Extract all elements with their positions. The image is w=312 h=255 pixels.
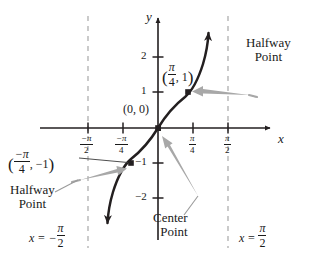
callout-arrow-halfway-top (192, 86, 249, 97)
halfway-point-annotation-top: Halfway Point (246, 36, 291, 63)
upper-point-label: ( π 4 , 1) (162, 61, 193, 88)
leader-line-halfway-bottom (55, 180, 78, 192)
fraction-half-pi: π 2 (224, 134, 231, 155)
center-point-annotation: Center Point (153, 211, 188, 238)
x-tick-label-neg-half-pi: −π 2 (80, 134, 93, 155)
lower-point-rest: , −1 (30, 157, 49, 171)
asymptote-right-prefix: x = (239, 231, 258, 245)
x-tick-label-quarter-pi: π 4 (189, 134, 196, 155)
center-point-line-2: Point (153, 225, 188, 239)
leader-line-lower-point (79, 158, 128, 163)
halfway-point-bottom-line-2: Point (10, 197, 55, 211)
fraction-neg-quarter-pi-inline: −π 4 (14, 148, 30, 175)
fraction-neg-quarter-pi: −π 4 (115, 134, 128, 155)
x-tick-label-neg-quarter-pi: −π 4 (115, 134, 128, 155)
center-point-line-1: Center (153, 211, 188, 225)
marked-point-origin (155, 125, 161, 131)
asymptote-label-right: x = π 2 (239, 222, 266, 249)
fraction-half-pi-right: π 2 (258, 222, 266, 249)
asymptote-left-prefix: x = − (29, 231, 57, 245)
callout-arrow-halfway-bottom (80, 166, 127, 180)
lower-point-label: ( −π 4 , −1) (8, 148, 54, 175)
x-axis-label: x (278, 132, 284, 146)
y-axis-label: y (146, 10, 152, 24)
origin-point-label: (0, 0) (123, 103, 149, 116)
marked-point-lower (128, 160, 134, 166)
halfway-point-annotation-bottom: Halfway Point (10, 183, 55, 210)
halfway-point-bottom-line-1: Halfway (10, 183, 55, 197)
tangent-graph-figure: y x 2 1 −1 −2 −π 2 −π 4 π 4 π 2 (0, 0) (… (0, 0, 312, 255)
paren-close: ) (49, 155, 55, 174)
fraction-neg-half-pi: −π 2 (80, 134, 93, 155)
halfway-point-top-line-1: Halfway (246, 36, 291, 50)
marked-point-upper (185, 89, 191, 95)
y-tick-label-neg-2: −2 (135, 191, 147, 203)
halfway-point-top-line-2: Point (246, 50, 291, 64)
y-tick-label-neg-1: −1 (135, 156, 147, 168)
fraction-quarter-pi-inline: π 4 (168, 61, 176, 88)
fraction-half-pi-left: π 2 (57, 222, 65, 249)
y-tick-label-1: 1 (141, 85, 147, 97)
paren-close: ) (188, 68, 194, 87)
upper-point-rest: , 1 (176, 70, 188, 84)
asymptote-label-left: x = − π 2 (29, 222, 65, 249)
y-tick-label-2: 2 (141, 50, 147, 62)
x-tick-label-half-pi: π 2 (224, 134, 231, 155)
fraction-quarter-pi: π 4 (189, 134, 196, 155)
